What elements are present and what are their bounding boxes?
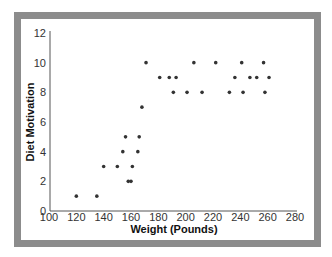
x-tick-label: 140 — [94, 211, 112, 223]
x-tick-label: 280 — [286, 211, 304, 223]
data-point — [200, 91, 204, 95]
data-point — [262, 61, 266, 65]
x-tick-label: 200 — [176, 211, 194, 223]
data-point — [172, 91, 176, 95]
data-point — [255, 76, 259, 80]
data-point — [240, 61, 244, 65]
data-point — [233, 76, 237, 80]
data-point — [248, 76, 252, 80]
data-point — [185, 91, 189, 95]
y-tick-label: 12 — [34, 27, 46, 39]
y-tick-label: 8 — [40, 86, 46, 98]
x-tick-label: 220 — [204, 211, 222, 223]
data-point — [214, 61, 218, 65]
x-tick-label: 260 — [258, 211, 276, 223]
data-point — [75, 194, 79, 198]
y-axis-title: Diet Motivation — [24, 82, 36, 161]
data-point — [129, 180, 133, 184]
y-tick-label: 2 — [40, 175, 46, 187]
y-tick-label: 4 — [40, 146, 46, 158]
data-point — [116, 165, 120, 169]
data-point — [144, 61, 148, 65]
x-tick-label: 240 — [231, 211, 249, 223]
data-point — [124, 135, 128, 139]
scatter-chart: 024681012 100120140160180200220240260280… — [0, 0, 332, 257]
data-point — [136, 150, 140, 154]
data-point — [102, 165, 106, 169]
x-tick-label: 180 — [149, 211, 167, 223]
data-points — [75, 61, 271, 198]
data-point — [140, 105, 144, 109]
data-point — [228, 91, 232, 95]
data-point — [263, 91, 267, 95]
axes — [50, 31, 297, 211]
data-point — [121, 150, 125, 154]
data-point — [174, 76, 178, 80]
y-tick-label: 6 — [40, 116, 46, 128]
x-tick-labels: 100120140160180200220240260280 — [40, 211, 304, 223]
x-axis-title: Weight (Pounds) — [130, 223, 218, 235]
data-point — [95, 194, 99, 198]
data-point — [167, 76, 171, 80]
x-tick-label: 100 — [40, 211, 58, 223]
y-tick-label: 10 — [34, 57, 46, 69]
x-tick-label: 120 — [67, 211, 85, 223]
data-point — [131, 165, 135, 169]
data-point — [267, 76, 271, 80]
data-point — [137, 135, 141, 139]
data-point — [241, 91, 245, 95]
data-point — [192, 61, 196, 65]
x-tick-label: 160 — [122, 211, 140, 223]
data-point — [158, 76, 162, 80]
